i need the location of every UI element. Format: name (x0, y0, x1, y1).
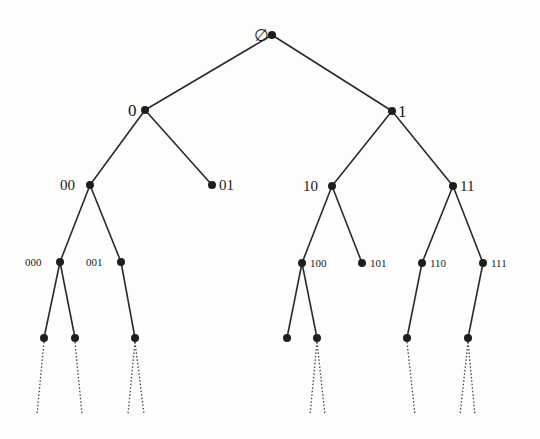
node-label: 0 (128, 101, 137, 120)
node-label: 00 (60, 177, 75, 193)
tree-edge (121, 262, 135, 338)
tree-node-dot (283, 334, 291, 342)
tree-node-dot (388, 107, 396, 115)
tree-node-dot (479, 259, 487, 267)
node-label: 1 (398, 102, 407, 121)
node-label: 10 (303, 178, 318, 194)
tree-edge (422, 186, 453, 263)
tree-edge (287, 263, 302, 338)
tree-edge (332, 111, 392, 186)
node-label: 110 (430, 257, 447, 269)
infinite-branch-dotted-line (317, 342, 325, 415)
tree-node-dot (418, 259, 426, 267)
tree-edge (302, 263, 317, 338)
tree-node-dot (313, 334, 321, 342)
node-label: 000 (25, 256, 42, 268)
tree-edge (44, 262, 60, 338)
tree-edge (145, 110, 212, 185)
tree-node-dot (141, 106, 149, 114)
node-label: ∅ (254, 26, 269, 45)
infinite-branch-dotted-line (407, 342, 415, 415)
tree-node-dot (71, 334, 79, 342)
tree-edge (392, 111, 453, 186)
tree-edge (302, 186, 332, 263)
tree-edge (453, 186, 483, 263)
tree-edge (407, 263, 422, 338)
tree-edges (44, 35, 483, 338)
tree-node-dot (40, 334, 48, 342)
tree-edge (90, 110, 145, 185)
binary-tree-diagram: ∅0100011011000001100101110111 (0, 0, 540, 439)
tree-node-dot (464, 334, 472, 342)
tree-continuations (37, 342, 475, 415)
tree-edge (332, 186, 362, 263)
node-label: 111 (491, 257, 507, 269)
node-label: 100 (310, 257, 327, 269)
infinite-branch-dotted-line (128, 342, 135, 414)
tree-node-dot (117, 258, 125, 266)
tree-edge (90, 185, 121, 262)
infinite-branch-dotted-line (75, 342, 82, 414)
node-label: 11 (460, 178, 474, 194)
tree-node-dot (131, 334, 139, 342)
node-label: 01 (219, 177, 234, 193)
tree-node-dot (298, 259, 306, 267)
infinite-branch-dotted-line (460, 342, 468, 415)
tree-node-dot (403, 334, 411, 342)
infinite-branch-dotted-line (135, 342, 144, 414)
infinite-branch-dotted-line (310, 342, 317, 415)
node-label: 001 (86, 256, 103, 268)
infinite-branch-dotted-line (468, 342, 475, 415)
tree-edge (468, 263, 483, 338)
tree-nodes (40, 31, 487, 342)
tree-edge (60, 185, 90, 262)
tree-node-dot (86, 181, 94, 189)
tree-node-dot (449, 182, 457, 190)
tree-edge (272, 35, 392, 111)
tree-node-dot (268, 31, 276, 39)
tree-svg: ∅0100011011000001100101110111 (0, 0, 540, 439)
tree-node-dot (358, 259, 366, 267)
infinite-branch-dotted-line (37, 342, 44, 414)
node-label: 101 (370, 257, 387, 269)
tree-edge (145, 35, 272, 110)
tree-node-dot (56, 258, 64, 266)
tree-edge (60, 262, 75, 338)
tree-node-dot (208, 181, 216, 189)
tree-node-dot (328, 182, 336, 190)
